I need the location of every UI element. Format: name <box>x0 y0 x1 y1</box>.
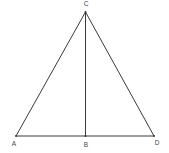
segment-cd <box>86 12 155 136</box>
segments <box>16 12 154 136</box>
point-d <box>153 135 155 137</box>
geometry-diagram: A B C D <box>0 0 169 153</box>
point-c <box>85 11 87 13</box>
label-b: B <box>84 141 88 148</box>
segment-ac <box>16 12 86 136</box>
point-b <box>85 135 87 137</box>
label-c: C <box>84 0 89 7</box>
label-a: A <box>12 140 17 147</box>
label-d: D <box>155 139 160 146</box>
point-a <box>15 135 17 137</box>
